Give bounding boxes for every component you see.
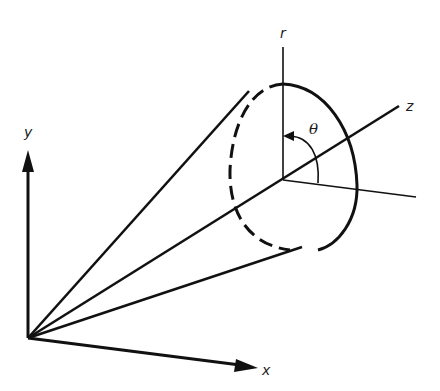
cross-section-circle	[230, 84, 357, 250]
z-axis	[28, 106, 399, 338]
z-axis-label: z	[405, 98, 414, 114]
cone-diagram: y x z r θ	[0, 0, 440, 391]
cross-section-solid-half	[283, 84, 357, 250]
theta-arrowhead-icon	[283, 131, 294, 141]
y-axis-arrowhead-icon	[22, 150, 34, 172]
reference-line	[283, 180, 416, 197]
theta-label: θ	[309, 120, 318, 138]
x-axis	[28, 338, 258, 372]
cross-section-dashed-half	[230, 84, 290, 250]
x-axis-arrowhead-icon	[234, 359, 258, 372]
y-axis-label: y	[23, 124, 33, 140]
r-axis-label: r	[280, 25, 287, 41]
x-axis-label: x	[261, 362, 271, 378]
y-axis	[22, 150, 34, 338]
